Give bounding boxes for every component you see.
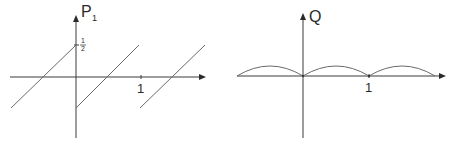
tick-dot	[368, 75, 370, 77]
right-x-tick-label: 1	[365, 80, 372, 95]
left-y-axis-arrow-icon	[73, 15, 79, 22]
left-x-tick-label: 1	[137, 81, 144, 96]
left-x-axis-arrow-icon	[199, 74, 206, 80]
right-x-axis-arrow-icon	[439, 73, 446, 79]
arch-2	[303, 66, 369, 76]
arch-3	[369, 66, 435, 76]
figure: P 1 1 2 1 Q 1	[0, 0, 453, 150]
left-y-label-subscript: 1	[92, 13, 97, 23]
right-plot: Q 1	[237, 8, 446, 138]
left-plot: P 1 1 2 1	[10, 3, 206, 138]
right-y-label: Q	[309, 8, 321, 25]
half-numerator: 1	[81, 37, 85, 44]
arch-1	[237, 66, 303, 76]
half-denominator: 2	[81, 45, 85, 52]
left-y-label: P	[81, 3, 92, 20]
origin-dot	[302, 75, 304, 77]
right-y-axis-arrow-icon	[300, 13, 306, 20]
